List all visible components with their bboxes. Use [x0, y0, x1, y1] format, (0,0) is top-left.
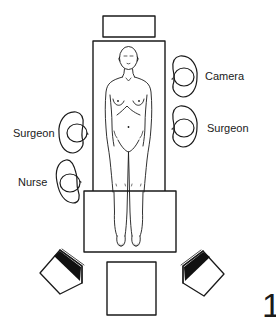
person-nurse: [56, 160, 81, 203]
foot-equipment-cart: [107, 262, 156, 315]
patient-head: [120, 47, 138, 70]
monitor-right: [181, 250, 224, 296]
diagram-canvas: [0, 0, 276, 328]
label-camera: Camera: [205, 71, 244, 82]
person-camera: [172, 56, 197, 97]
person-surgeon-left: [59, 112, 88, 153]
or-layout-diagram: Camera Surgeon Surgeon Nurse 1: [0, 0, 276, 328]
head-equipment: [103, 16, 155, 37]
figure-number: 1: [262, 288, 276, 322]
label-surgeon-left: Surgeon: [13, 128, 55, 139]
label-surgeon-right: Surgeon: [207, 123, 249, 134]
label-nurse: Nurse: [18, 177, 47, 188]
person-surgeon-right: [172, 106, 197, 147]
monitor-left: [40, 249, 84, 294]
